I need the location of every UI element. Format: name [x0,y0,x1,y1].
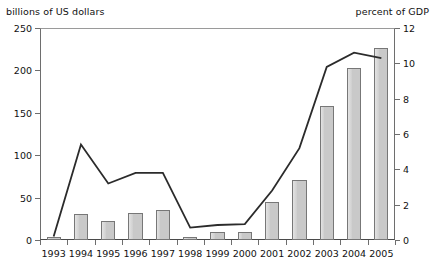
plot-area: 050100150200250 024681012 19931994199519… [40,28,395,240]
y-axis-right-tick-label: 12 [403,23,415,34]
y-axis-right-tick-label: 0 [403,235,409,246]
y-axis-left-tick-label: 100 [14,150,32,161]
x-axis-tick [40,240,41,245]
x-axis-tick [231,240,232,245]
y-axis-right-tick-label: 8 [403,93,409,104]
x-axis-tick-label: 1998 [178,248,202,259]
x-axis-tick-label: 1996 [123,248,147,259]
y-axis-right-tick-label: 2 [403,199,409,210]
right-axis-title: percent of GDP [356,6,429,17]
x-axis-tick-label: 1993 [42,248,66,259]
x-axis-tick-label: 1994 [69,248,93,259]
y-axis-right-tick [395,28,400,29]
x-axis-tick-label: 2003 [315,248,339,259]
x-axis-tick [177,240,178,245]
x-axis-tick [67,240,68,245]
x-axis-tick [286,240,287,245]
left-axis-title: billions of US dollars [6,6,105,17]
y-axis-right-tick [395,99,400,100]
y-axis-left-tick-label: 0 [26,235,32,246]
x-axis-tick-label: 2004 [342,248,366,259]
x-axis-tick [313,240,314,245]
x-axis-tick-label: 1995 [96,248,120,259]
x-axis-tick [395,240,396,245]
chart-container: billions of US dollars percent of GDP 05… [0,0,435,270]
line-series-percent-gdp [40,28,395,240]
y-axis-left-tick-label: 200 [14,65,32,76]
y-axis-left-tick-label: 50 [20,192,32,203]
x-axis-tick [122,240,123,245]
x-axis-tick-label: 2000 [233,248,257,259]
y-axis-right-tick [395,134,400,135]
y-axis-left-tick-label: 150 [14,107,32,118]
line-path [54,53,382,237]
y-axis-right-tick [395,205,400,206]
x-axis-tick [258,240,259,245]
y-axis-right-tick-label: 6 [403,129,409,140]
x-axis-tick-label: 1997 [151,248,175,259]
x-axis-tick [95,240,96,245]
y-axis-right-tick [395,63,400,64]
x-axis-tick-label: 1999 [205,248,229,259]
x-axis-tick [204,240,205,245]
x-axis-tick-label: 2005 [369,248,393,259]
y-axis-right-tick-label: 10 [403,58,415,69]
x-axis-tick [368,240,369,245]
y-axis-left-tick-label: 250 [14,23,32,34]
x-axis-tick [149,240,150,245]
x-axis-tick-label: 2002 [287,248,311,259]
y-axis-right-tick-label: 4 [403,164,409,175]
x-axis-tick-label: 2001 [260,248,284,259]
y-axis-right-tick [395,169,400,170]
x-axis-tick [340,240,341,245]
